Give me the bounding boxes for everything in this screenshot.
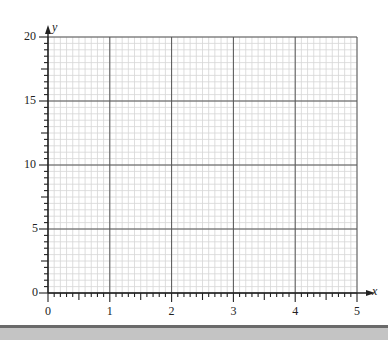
bottom-bar xyxy=(0,325,388,340)
y-tick-label: 0 xyxy=(32,286,38,298)
y-tick-label: 10 xyxy=(24,158,36,170)
x-tick-label: 3 xyxy=(230,305,236,317)
x-tick-label: 0 xyxy=(45,305,51,317)
x-tick-label: 2 xyxy=(169,305,175,317)
axes xyxy=(39,25,375,302)
x-axis-label: x xyxy=(372,284,377,299)
x-tick-label: 4 xyxy=(292,305,298,317)
y-axis-label: y xyxy=(52,20,57,35)
y-tick-label: 20 xyxy=(24,30,36,42)
y-tick-label: 5 xyxy=(32,222,38,234)
graph-paper-plot xyxy=(0,0,388,340)
y-tick-label: 15 xyxy=(24,94,36,106)
x-tick-label: 1 xyxy=(107,305,113,317)
x-tick-label: 5 xyxy=(354,305,360,317)
